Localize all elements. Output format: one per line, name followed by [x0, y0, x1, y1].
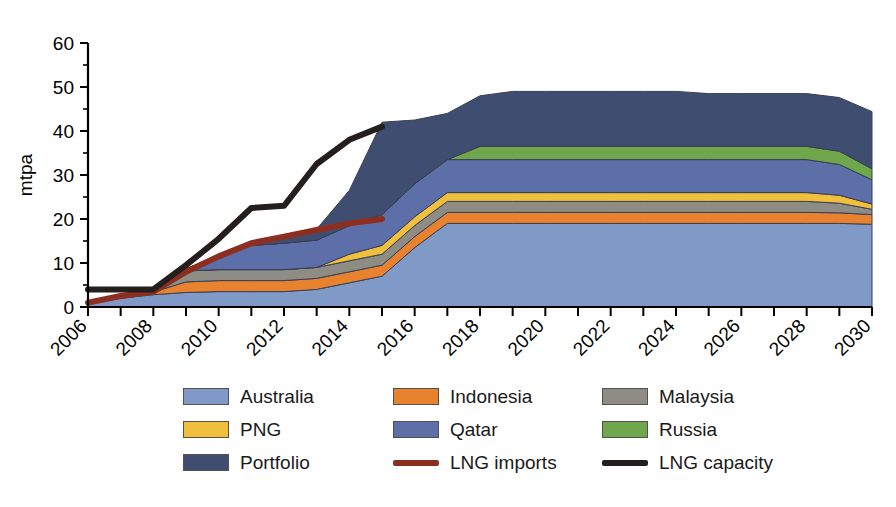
y-axis-tick-label: 20 — [53, 209, 74, 230]
legend-item-label: PNG — [240, 420, 281, 439]
legend-color-swatch — [183, 388, 229, 405]
y-axis-tick-label: 50 — [53, 77, 74, 98]
legend-item-lng-capacity[interactable]: LNG capacity — [602, 453, 773, 472]
x-axis-tick-label: 2008 — [111, 315, 156, 360]
stacked-areas-group — [88, 91, 872, 307]
y-axis-tick-label: 30 — [53, 165, 74, 186]
legend-item-label: Russia — [659, 420, 717, 439]
legend-item-russia[interactable]: Russia — [602, 420, 717, 439]
legend-item-lng-imports[interactable]: LNG imports — [393, 453, 557, 472]
y-axis-tick-label: 40 — [53, 121, 74, 142]
y-axis-tick-label: 0 — [63, 297, 74, 318]
legend-item-label: Qatar — [450, 420, 498, 439]
legend-item-qatar[interactable]: Qatar — [393, 420, 498, 439]
legend-item-australia[interactable]: Australia — [183, 387, 314, 406]
legend-item-label: Malaysia — [659, 387, 734, 406]
legend-color-swatch — [602, 388, 648, 405]
x-axis-tick-label: 2012 — [242, 315, 287, 360]
legend-line-marker — [602, 460, 648, 466]
legend-item-png[interactable]: PNG — [183, 420, 281, 439]
x-axis-tick-label: 2026 — [699, 315, 744, 360]
legend-item-indonesia[interactable]: Indonesia — [393, 387, 532, 406]
x-axis-tick-label: 2030 — [830, 315, 875, 360]
legend-item-malaysia[interactable]: Malaysia — [602, 387, 734, 406]
legend-color-swatch — [393, 388, 439, 405]
legend-color-swatch — [183, 421, 229, 438]
legend-color-swatch — [602, 421, 648, 438]
x-axis-tick-label: 2028 — [765, 315, 810, 360]
legend-item-label: Indonesia — [450, 387, 532, 406]
x-axis-ticks-group: 2006200820102012201420162018202020222024… — [46, 307, 875, 360]
legend-item-label: Portfolio — [240, 453, 310, 472]
legend-item-label: LNG imports — [450, 453, 557, 472]
x-axis-tick-label: 2022 — [569, 315, 614, 360]
y-axis-tick-label: 60 — [53, 33, 74, 54]
legend-item-portfolio[interactable]: Portfolio — [183, 453, 310, 472]
chart-legend: AustraliaIndonesiaMalaysiaPNGQatarRussia… — [0, 378, 896, 507]
x-axis-tick-label: 2024 — [634, 315, 679, 360]
x-axis-tick-label: 2014 — [307, 315, 352, 360]
x-axis-tick-label: 2006 — [46, 315, 91, 360]
x-axis-tick-label: 2018 — [438, 315, 483, 360]
legend-item-label: LNG capacity — [659, 453, 773, 472]
y-axis-title: mtpa — [15, 153, 36, 196]
x-axis-tick-label: 2010 — [177, 315, 222, 360]
legend-line-marker — [393, 460, 439, 466]
y-axis-ticks-group: 0102030405060 — [53, 33, 88, 318]
legend-color-swatch — [393, 421, 439, 438]
chart-container: 0102030405060mtpa20062008201020122014201… — [0, 0, 896, 507]
y-axis-tick-label: 10 — [53, 253, 74, 274]
legend-item-label: Australia — [240, 387, 314, 406]
x-axis-tick-label: 2020 — [503, 315, 548, 360]
x-axis-tick-label: 2016 — [373, 315, 418, 360]
legend-color-swatch — [183, 454, 229, 471]
